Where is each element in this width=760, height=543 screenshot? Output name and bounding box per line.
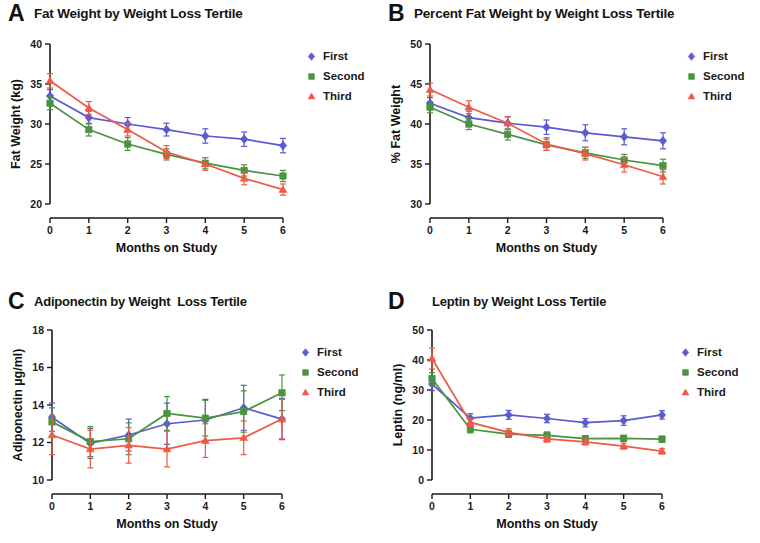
series-first xyxy=(46,90,286,153)
chart-d: 010203040500123456Months on StudyLeptin … xyxy=(380,272,760,543)
panel-a: A Fat Weight by Weight Loss Tertile 2025… xyxy=(0,0,380,271)
data-point xyxy=(279,141,286,150)
series-line xyxy=(432,379,662,440)
legend-label: Second xyxy=(703,70,745,82)
plot-area: 20253035400123456Months on StudyFat Weig… xyxy=(0,0,380,271)
square-marker-icon xyxy=(680,367,691,378)
y-tick-label: 40 xyxy=(410,118,422,130)
legend-item-third: Third xyxy=(306,86,365,106)
x-tick-label: 2 xyxy=(126,500,132,512)
x-tick-label: 3 xyxy=(164,224,170,236)
x-tick-label: 0 xyxy=(429,500,435,512)
diamond-marker-icon xyxy=(306,51,317,62)
x-tick-label: 0 xyxy=(47,224,53,236)
x-tick-label: 6 xyxy=(659,500,665,512)
y-tick-label: 30 xyxy=(30,118,42,130)
y-axis-title: Fat Weight (kg) xyxy=(9,79,23,169)
x-tick-label: 4 xyxy=(582,500,588,512)
data-point xyxy=(426,86,434,93)
y-tick-label: 18 xyxy=(32,324,44,336)
data-point xyxy=(48,431,56,438)
diamond-marker-icon xyxy=(680,347,691,358)
x-tick-label: 2 xyxy=(506,500,512,512)
chart-b: 30354045500123456Months on Study% Fat We… xyxy=(380,0,760,271)
legend-label: Third xyxy=(317,386,346,398)
y-tick-label: 30 xyxy=(412,384,424,396)
panel-b: B Percent Fat Weight by Weight Loss Tert… xyxy=(380,0,760,271)
y-axis-title: Leptin (ng/ml) xyxy=(391,364,405,447)
x-tick-label: 3 xyxy=(164,500,170,512)
plot-area: 10121416180123456Months on StudyAdiponec… xyxy=(0,272,380,543)
y-tick-label: 20 xyxy=(412,414,424,426)
y-tick-label: 45 xyxy=(410,78,422,90)
legend-item-second: Second xyxy=(680,362,739,382)
y-tick-label: 12 xyxy=(32,436,44,448)
data-point xyxy=(582,418,589,427)
legend-label: First xyxy=(323,50,348,62)
x-tick-label: 0 xyxy=(427,224,433,236)
y-tick-label: 50 xyxy=(410,38,422,50)
y-tick-label: 14 xyxy=(32,399,44,411)
x-axis-title: Months on Study xyxy=(116,517,217,531)
legend: FirstSecondThird xyxy=(686,46,745,106)
x-tick-label: 6 xyxy=(280,224,286,236)
data-point xyxy=(163,125,170,134)
data-point xyxy=(124,126,132,133)
data-point xyxy=(46,77,54,84)
chart-c: 10121416180123456Months on StudyAdiponec… xyxy=(0,272,380,543)
x-tick-label: 2 xyxy=(505,224,511,236)
data-point xyxy=(620,435,626,441)
x-tick-label: 1 xyxy=(466,224,472,236)
x-tick-label: 2 xyxy=(125,224,131,236)
data-point xyxy=(620,132,627,141)
plot-area: 010203040500123456Months on StudyLeptin … xyxy=(380,272,760,543)
legend-label: First xyxy=(703,50,728,62)
data-point xyxy=(279,390,285,396)
x-tick-label: 5 xyxy=(621,500,627,512)
triangle-marker-icon xyxy=(306,91,317,102)
legend-label: Third xyxy=(703,90,732,102)
x-tick-label: 3 xyxy=(544,500,550,512)
legend: FirstSecondThird xyxy=(306,46,365,106)
legend: FirstSecondThird xyxy=(300,342,359,402)
x-axis-title: Months on Study xyxy=(496,241,597,255)
x-tick-label: 4 xyxy=(202,224,208,236)
y-tick-label: 10 xyxy=(32,474,44,486)
data-point xyxy=(124,141,130,147)
data-point xyxy=(504,131,510,137)
data-point xyxy=(164,410,170,416)
legend-item-second: Second xyxy=(306,66,365,86)
series-second xyxy=(47,97,286,182)
legend-label: Second xyxy=(323,70,365,82)
data-point xyxy=(659,136,666,145)
y-tick-label: 50 xyxy=(412,324,424,336)
y-axis-title: % Fat Weight xyxy=(389,84,403,163)
diamond-marker-icon xyxy=(300,347,311,358)
data-point xyxy=(582,128,589,137)
triangle-marker-icon xyxy=(680,387,691,398)
data-point xyxy=(660,162,666,168)
panel-d: D Leptin by Weight Loss Tertile 01020304… xyxy=(380,272,760,543)
y-tick-label: 20 xyxy=(30,198,42,210)
x-tick-label: 5 xyxy=(241,500,247,512)
y-tick-label: 40 xyxy=(412,354,424,366)
data-point xyxy=(240,408,246,414)
data-point xyxy=(202,132,209,141)
y-tick-label: 35 xyxy=(410,158,422,170)
data-point xyxy=(620,416,627,425)
x-tick-label: 0 xyxy=(49,500,55,512)
legend-item-first: First xyxy=(686,46,745,66)
y-tick-label: 16 xyxy=(32,361,44,373)
x-tick-label: 5 xyxy=(241,224,247,236)
legend-label: Second xyxy=(697,366,739,378)
legend-item-second: Second xyxy=(686,66,745,86)
data-point xyxy=(505,411,512,420)
data-point xyxy=(427,104,433,110)
square-marker-icon xyxy=(300,367,311,378)
data-point xyxy=(466,121,472,127)
y-tick-label: 0 xyxy=(418,474,424,486)
legend-label: First xyxy=(697,346,722,358)
x-axis-title: Months on Study xyxy=(116,241,217,255)
legend-item-second: Second xyxy=(300,362,359,382)
legend-label: Third xyxy=(323,90,352,102)
